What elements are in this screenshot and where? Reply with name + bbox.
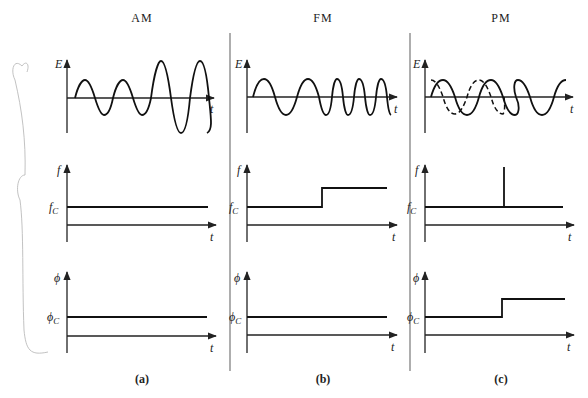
- y-axis-label: E: [412, 57, 421, 71]
- y-axis-label: E: [54, 57, 63, 71]
- y-axis-label: f: [415, 163, 420, 177]
- x-axis-label: t: [210, 230, 214, 244]
- panel-am-e: E t: [54, 57, 214, 133]
- frequency-trace: [247, 188, 387, 207]
- x-axis-label: t: [567, 340, 571, 354]
- reference-label: ϕC: [407, 310, 420, 326]
- x-axis-label: t: [210, 341, 214, 355]
- column-title-fm: FM: [313, 11, 332, 25]
- phase-trace: [425, 299, 565, 317]
- caption-b: (b): [316, 372, 331, 386]
- x-axis-label: t: [568, 230, 572, 244]
- reference-label: fC: [407, 200, 417, 216]
- column-title-am: AM: [131, 11, 152, 25]
- reference-label: fC: [49, 200, 59, 216]
- panel-fm-phi: ϕ ϕC t: [229, 271, 397, 354]
- x-axis-label: t: [394, 102, 398, 116]
- reference-label: fC: [229, 200, 239, 216]
- panel-fm-f: f fC t: [229, 163, 397, 244]
- reference-label: ϕC: [229, 310, 242, 326]
- panel-fm-e: E t: [234, 57, 398, 133]
- reference-label: ϕC: [47, 310, 60, 326]
- column-title-pm: PM: [491, 11, 510, 25]
- panel-am-f: f fC t: [49, 163, 216, 244]
- caption-a: (a): [135, 372, 149, 386]
- panel-pm-e: E t: [412, 57, 574, 133]
- y-axis-label: ϕ: [413, 271, 419, 285]
- panel-pm-f: f fC t: [407, 163, 574, 244]
- y-axis-label: E: [234, 57, 243, 71]
- panel-pm-phi: ϕ ϕC t: [407, 271, 574, 354]
- y-axis-label: ϕ: [234, 271, 240, 285]
- x-axis-label: t: [392, 230, 396, 244]
- y-axis-label: f: [57, 163, 62, 177]
- caption-c: (c): [494, 372, 507, 386]
- pencil-marks: [13, 63, 48, 353]
- y-axis-label: f: [237, 163, 242, 177]
- x-axis-label: t: [570, 102, 574, 116]
- x-axis-label: t: [391, 340, 395, 354]
- am-waveform: [75, 61, 211, 133]
- modulation-diagram: AM FM PM E t f fC t ϕ ϕC t (a) E t f: [0, 0, 588, 398]
- panel-am-phi: ϕ ϕC t: [47, 271, 216, 355]
- y-axis-label: ϕ: [54, 271, 60, 285]
